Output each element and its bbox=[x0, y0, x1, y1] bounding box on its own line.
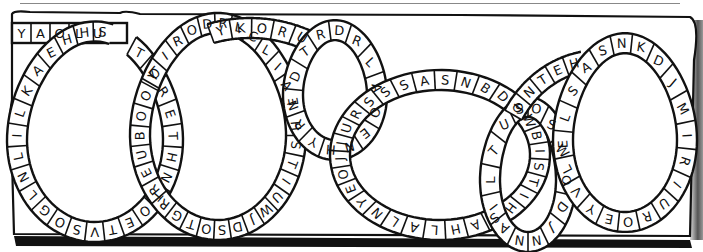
letter-cell[interactable]: B bbox=[132, 131, 147, 140]
letter-cell[interactable]: N bbox=[617, 36, 627, 51]
letter-cell[interactable]: N bbox=[514, 232, 526, 248]
letter-cell[interactable]: S bbox=[218, 222, 227, 237]
letter-cell[interactable]: V bbox=[90, 224, 99, 239]
letter-cell[interactable]: E bbox=[555, 140, 571, 149]
letter-cell[interactable]: T bbox=[165, 131, 180, 141]
letter-cell[interactable]: S bbox=[441, 72, 450, 88]
letter-cell[interactable]: O bbox=[559, 175, 574, 185]
puzzle-board: YAOLUTLRETHNTOETVSOGLNLILKAEHHSOIRODRLCL… bbox=[0, 0, 703, 252]
letter-cell[interactable]: O bbox=[200, 221, 212, 237]
letter-cell[interactable]: J bbox=[333, 157, 348, 162]
letter-cell[interactable]: O bbox=[530, 101, 542, 117]
letter-cell[interactable]: D bbox=[201, 16, 212, 32]
letter-cell[interactable]: O bbox=[623, 214, 634, 229]
letter-cell[interactable]: Y bbox=[17, 26, 26, 41]
letter-cell[interactable]: H bbox=[79, 25, 90, 41]
letter-cell[interactable]: D bbox=[334, 23, 345, 39]
letter-cell[interactable]: N bbox=[531, 232, 543, 248]
letter-cell[interactable]: S bbox=[98, 24, 107, 40]
letter-cell[interactable]: O bbox=[256, 20, 268, 36]
letter-cell[interactable]: A bbox=[36, 26, 45, 41]
letter-cell[interactable]: I bbox=[532, 149, 547, 153]
letter-cell[interactable]: S bbox=[531, 162, 547, 172]
letter-cell[interactable]: L bbox=[483, 176, 498, 184]
